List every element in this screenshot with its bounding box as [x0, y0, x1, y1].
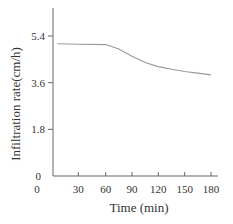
line-chart: 01.83.65.4 0306090120150180 Time (min) I… [0, 0, 233, 224]
x-axis-label: Time (min) [109, 200, 168, 215]
y-ticks: 01.83.65.4 [31, 30, 53, 182]
y-axis-label: Infiltration rate(cm/h) [8, 47, 23, 161]
infiltration-rate-line [57, 44, 211, 75]
x-tick-label: 150 [176, 183, 193, 195]
y-tick-label: 5.4 [31, 30, 45, 42]
axes [53, 8, 218, 176]
y-tick-label: 1.8 [31, 123, 45, 135]
y-tick-label: 0 [36, 170, 42, 182]
x-tick-label: 60 [100, 183, 112, 195]
x-tick-label: 90 [127, 183, 139, 195]
x-tick-label: 30 [73, 183, 85, 195]
x-ticks: 0306090120150180 [34, 172, 220, 195]
y-tick-label: 3.6 [31, 77, 45, 89]
x-tick-label: 180 [203, 183, 220, 195]
x-tick-label: 0 [34, 183, 40, 195]
x-tick-label: 120 [150, 183, 167, 195]
